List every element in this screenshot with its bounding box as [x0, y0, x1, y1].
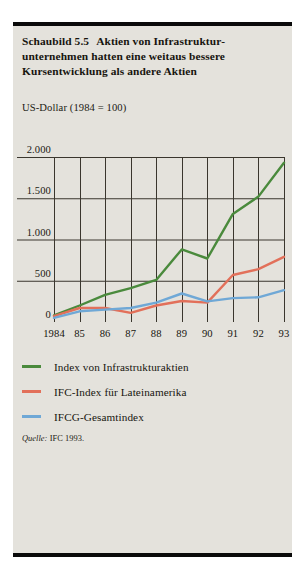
legend-color-swatch: [22, 365, 41, 368]
x-axis-tick-label: 91: [222, 328, 244, 339]
top-rule: [13, 22, 292, 26]
legend-item[interactable]: IFC-Index für Lateinamerika: [22, 379, 284, 404]
legend-color-swatch: [22, 415, 41, 418]
chart-plot-area: 05001.0001.5002.000198485868788899091929…: [13, 116, 292, 322]
y-axis-unit-label: US-Dollar (1984 = 100): [22, 102, 126, 113]
legend-item-label: IFCG-Gesamtindex: [54, 411, 144, 423]
legend-color-swatch: [22, 390, 41, 393]
x-axis-tick-label: 90: [196, 328, 218, 339]
figure-panel: Schaubild 5.5Aktien von Infrastruktur­un…: [13, 22, 292, 556]
figure-title: Schaubild 5.5Aktien von Infrastruktur­un…: [22, 34, 284, 80]
y-axis-tick-label: 1.500: [13, 185, 51, 196]
x-axis-tick-label: 1984: [37, 328, 71, 339]
y-axis-tick-label: 500: [13, 268, 51, 279]
source-value: IFC 1993.: [50, 434, 84, 443]
y-axis-tick-label: 1.000: [13, 227, 51, 238]
x-axis-tick-label: 87: [120, 328, 142, 339]
figure-number: Schaubild 5.5: [22, 35, 89, 47]
source-label: Quelle:: [22, 434, 47, 443]
legend-item-label: IFC-Index für Lateinamerika: [54, 386, 187, 398]
series-line: [54, 163, 284, 316]
source-note: Quelle: IFC 1993.: [22, 434, 84, 443]
y-axis-tick-label: 2.000: [13, 144, 51, 155]
legend-item-label: Index von Infrastrukturaktien: [54, 361, 189, 373]
legend-item[interactable]: IFCG-Gesamtindex: [22, 404, 284, 429]
bottom-rule: [13, 553, 292, 557]
x-axis-tick-label: 93: [273, 328, 295, 339]
legend-item[interactable]: Index von Infrastrukturaktien: [22, 354, 284, 379]
x-axis-tick-label: 92: [247, 328, 269, 339]
y-axis-tick-label: 0: [13, 309, 51, 320]
x-axis-tick-label: 86: [94, 328, 116, 339]
x-axis-tick-label: 89: [171, 328, 193, 339]
line-chart-svg: [13, 116, 292, 322]
x-axis-tick-label: 88: [145, 328, 167, 339]
chart-legend: Index von InfrastrukturaktienIFC-Index f…: [22, 354, 284, 429]
x-axis-tick-label: 85: [69, 328, 91, 339]
